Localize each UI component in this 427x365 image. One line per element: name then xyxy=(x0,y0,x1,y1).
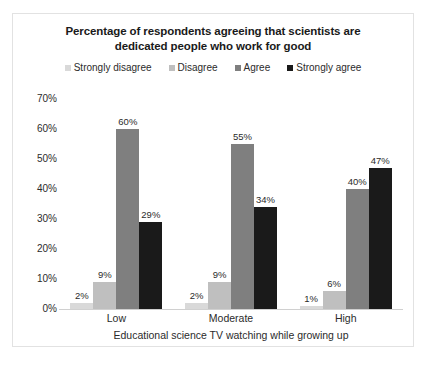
y-axis-tick-label: 30% xyxy=(21,214,57,224)
x-axis-categories: LowModerateHigh xyxy=(59,312,403,324)
y-axis-tick-label: 0% xyxy=(21,304,57,314)
bar-slot: 29% xyxy=(139,99,162,309)
bar-value-label: 47% xyxy=(371,156,390,166)
bar-value-label: 6% xyxy=(327,279,341,289)
y-axis-tick-label: 60% xyxy=(21,124,57,134)
chart-title: Percentage of respondents agreeing that … xyxy=(13,24,413,54)
chart-title-line-2: dedicated people who work for good xyxy=(13,39,413,54)
bar-high-agree[interactable]: 40% xyxy=(346,189,369,309)
bar-group-high: 1%6%40%47% xyxy=(288,99,403,309)
bar-value-label: 1% xyxy=(304,294,318,304)
y-axis: 0%10%20%30%40%50%60%70% xyxy=(21,99,57,309)
legend-item-strongly-disagree[interactable]: Strongly disagree xyxy=(65,62,152,73)
legend-label: Strongly disagree xyxy=(74,62,152,73)
x-axis-title: Educational science TV watching while gr… xyxy=(59,329,403,341)
plot-area: 2%9%60%29%2%9%55%34%1%6%40%47% xyxy=(59,99,403,310)
bar-group-moderate: 2%9%55%34% xyxy=(174,99,289,309)
legend-swatch-icon xyxy=(65,65,71,71)
bar-low-strongly-agree[interactable]: 29% xyxy=(139,222,162,309)
legend-item-strongly-agree[interactable]: Strongly agree xyxy=(287,62,361,73)
bar-high-strongly-agree[interactable]: 47% xyxy=(369,168,392,309)
bar-value-label: 29% xyxy=(141,210,160,220)
bar-slot: 60% xyxy=(116,99,139,309)
y-axis-tick-label: 50% xyxy=(21,154,57,164)
bar-slot: 9% xyxy=(93,99,116,309)
bar-low-strongly-disagree[interactable]: 2% xyxy=(70,303,93,309)
bar-slot: 9% xyxy=(208,99,231,309)
legend-item-agree[interactable]: Agree xyxy=(235,62,271,73)
bar-slot: 6% xyxy=(323,99,346,309)
chart-frame: Percentage of respondents agreeing that … xyxy=(12,13,414,347)
bar-slot: 2% xyxy=(70,99,93,309)
bar-value-label: 9% xyxy=(98,270,112,280)
x-axis-category-label: High xyxy=(288,312,403,324)
bar-value-label: 60% xyxy=(118,117,137,127)
legend-label: Strongly agree xyxy=(296,62,361,73)
bar-value-label: 2% xyxy=(190,291,204,301)
chart-legend: Strongly disagreeDisagreeAgreeStrongly a… xyxy=(13,62,413,73)
bar-moderate-strongly-disagree[interactable]: 2% xyxy=(185,303,208,309)
legend-label: Agree xyxy=(244,62,271,73)
bar-high-disagree[interactable]: 6% xyxy=(323,291,346,309)
legend-swatch-icon xyxy=(235,65,241,71)
bar-value-label: 34% xyxy=(256,195,275,205)
bar-slot: 2% xyxy=(185,99,208,309)
bar-high-strongly-disagree[interactable]: 1% xyxy=(300,306,323,309)
bar-moderate-strongly-agree[interactable]: 34% xyxy=(254,207,277,309)
bar-moderate-disagree[interactable]: 9% xyxy=(208,282,231,309)
bar-slot: 47% xyxy=(369,99,392,309)
y-axis-tick-label: 20% xyxy=(21,244,57,254)
bar-group-low: 2%9%60%29% xyxy=(59,99,174,309)
legend-label: Disagree xyxy=(178,62,218,73)
bar-low-agree[interactable]: 60% xyxy=(116,129,139,309)
bar-slot: 34% xyxy=(254,99,277,309)
legend-item-disagree[interactable]: Disagree xyxy=(169,62,218,73)
legend-swatch-icon xyxy=(169,65,175,71)
bar-value-label: 55% xyxy=(233,132,252,142)
legend-swatch-icon xyxy=(287,65,293,71)
y-axis-tick-label: 70% xyxy=(21,94,57,104)
bar-low-disagree[interactable]: 9% xyxy=(93,282,116,309)
bar-moderate-agree[interactable]: 55% xyxy=(231,144,254,309)
bar-groups: 2%9%60%29%2%9%55%34%1%6%40%47% xyxy=(59,99,403,309)
y-axis-tick-label: 40% xyxy=(21,184,57,194)
bar-slot: 40% xyxy=(346,99,369,309)
x-axis-category-label: Low xyxy=(59,312,174,324)
bar-slot: 1% xyxy=(300,99,323,309)
bar-value-label: 2% xyxy=(75,291,89,301)
bar-slot: 55% xyxy=(231,99,254,309)
bar-value-label: 9% xyxy=(213,270,227,280)
x-axis-category-label: Moderate xyxy=(174,312,289,324)
y-axis-tick-label: 10% xyxy=(21,274,57,284)
plot-wrapper: 0%10%20%30%40%50%60%70% 2%9%60%29%2%9%55… xyxy=(13,86,413,348)
chart-title-line-1: Percentage of respondents agreeing that … xyxy=(13,24,413,39)
bar-value-label: 40% xyxy=(348,177,367,187)
